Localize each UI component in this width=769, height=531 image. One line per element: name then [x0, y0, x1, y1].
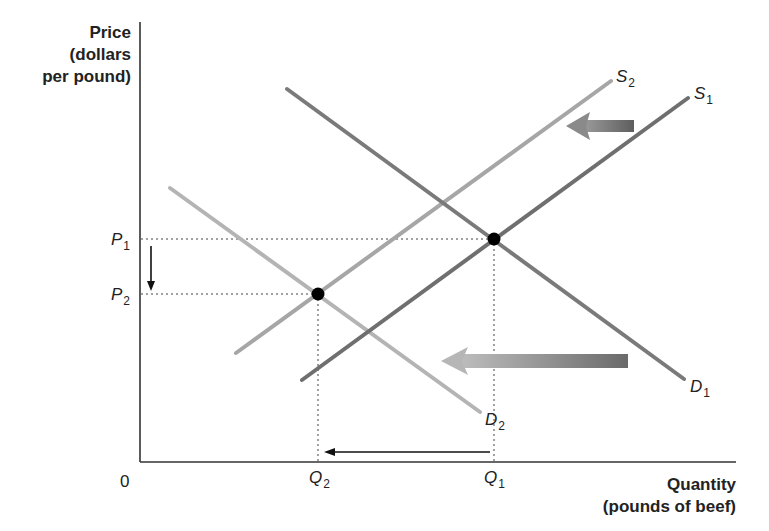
- demand-shift-arrow: [441, 347, 628, 375]
- y-axis-title-line3: per pound): [42, 67, 131, 86]
- price-p2-label: P2: [111, 285, 130, 308]
- price-decrease-arrow: [147, 246, 155, 291]
- supply-shift-arrow: [566, 112, 634, 140]
- quantity-q1-label: Q1: [484, 468, 505, 491]
- x-axis-title-line2: (pounds of beef): [603, 497, 736, 516]
- x-axis-title-line1: Quantity: [667, 475, 736, 494]
- supply-s2-label: S2: [616, 67, 635, 90]
- demand-d2-label: D2: [485, 410, 505, 433]
- price-p1-label: P1: [111, 230, 130, 253]
- demand-d1-label: D1: [690, 377, 710, 400]
- equilibrium-point-e1: [488, 233, 501, 246]
- quantity-q2-label: Q2: [309, 468, 330, 491]
- demand-curve-d2: [170, 188, 480, 412]
- quantity-decrease-arrow: [324, 448, 490, 456]
- origin-label: 0: [120, 472, 129, 491]
- y-axis-title-line1: Price: [89, 23, 131, 42]
- supply-demand-chart: Price (dollars per pound) Quantity (poun…: [0, 0, 769, 531]
- equilibrium-point-e2: [312, 288, 325, 301]
- y-axis-title-line2: (dollars: [70, 45, 131, 64]
- demand-curve-d1: [287, 89, 684, 379]
- supply-s1-label: S1: [694, 84, 713, 107]
- supply-curve-s2: [236, 81, 611, 353]
